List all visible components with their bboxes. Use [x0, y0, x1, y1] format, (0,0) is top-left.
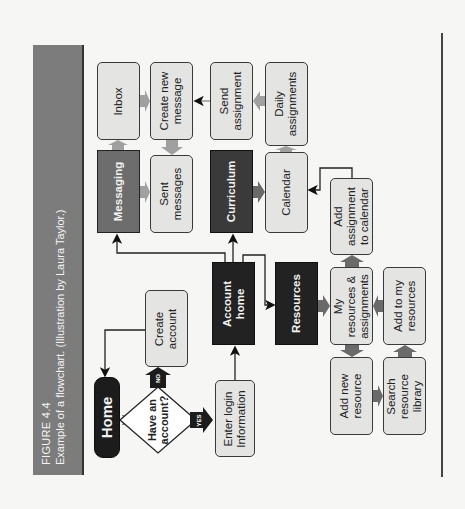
node-enter-login[interactable]: Enter loginInformation — [215, 380, 255, 457]
decision-no-label: NO — [151, 370, 165, 386]
node-account-home[interactable]: Accounthome — [212, 262, 255, 345]
node-messaging[interactable]: Messaging — [97, 150, 140, 233]
node-decision[interactable]: Have an account? — [128, 400, 188, 440]
node-home[interactable]: Home — [94, 377, 120, 458]
node-inbox[interactable]: Inbox — [97, 62, 140, 140]
node-calendar[interactable]: Calendar — [265, 152, 308, 233]
node-send-assignment[interactable]: Sendassignment — [210, 62, 253, 140]
node-sent-messages[interactable]: Sentmessages — [150, 155, 193, 233]
node-search-resource-library[interactable]: Searchresourcelibrary — [383, 357, 426, 435]
node-curriculum[interactable]: Curriculum — [210, 150, 253, 233]
node-daily-assignments[interactable]: Dailyassignments — [265, 62, 308, 146]
node-add-assignment-to-calendar[interactable]: Addassignmentto calendar — [330, 178, 373, 255]
node-create-account[interactable]: Createaccount — [145, 290, 188, 367]
decision-yes-label: YES — [192, 412, 206, 428]
node-create-new-message[interactable]: Create newmessage — [150, 62, 193, 140]
node-my-resources-assignments[interactable]: Myresources &assignments — [330, 267, 373, 345]
node-add-new-resource[interactable]: Add newresource — [330, 357, 373, 435]
node-add-to-my-resources[interactable]: Add to myresources — [383, 267, 426, 345]
node-resources[interactable]: Resources — [275, 262, 318, 345]
